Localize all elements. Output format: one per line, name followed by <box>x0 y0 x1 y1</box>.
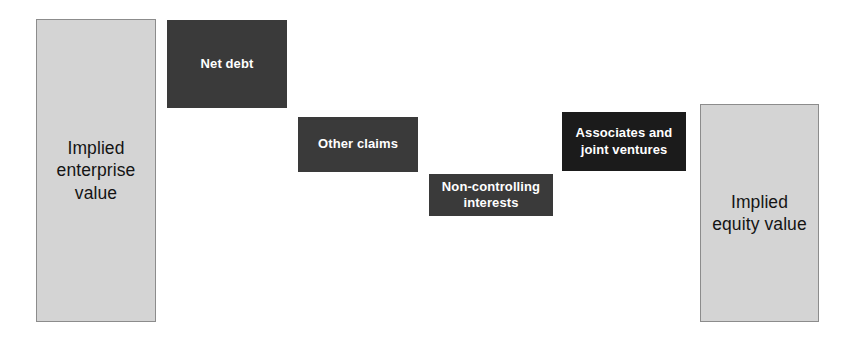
bar-label-implied-enterprise-value: Implied enterprise value <box>57 137 136 204</box>
bar-label-other-claims: Other claims <box>318 136 398 152</box>
bar-net-debt: Net debt <box>167 20 287 108</box>
bar-label-non-controlling-interests: Non-controlling interests <box>442 179 540 212</box>
bar-associates-and-joint-ventures: Associates and joint ventures <box>562 112 686 171</box>
bar-non-controlling-interests: Non-controlling interests <box>429 174 553 216</box>
bar-implied-equity-value: Implied equity value <box>700 104 819 322</box>
bar-other-claims: Other claims <box>298 117 418 172</box>
bar-label-net-debt: Net debt <box>201 56 254 72</box>
bar-label-associates-and-joint-ventures: Associates and joint ventures <box>576 125 673 158</box>
waterfall-chart: Implied enterprise value Net debt Other … <box>0 0 856 347</box>
bar-implied-enterprise-value: Implied enterprise value <box>36 19 156 322</box>
bar-label-implied-equity-value: Implied equity value <box>712 191 807 236</box>
